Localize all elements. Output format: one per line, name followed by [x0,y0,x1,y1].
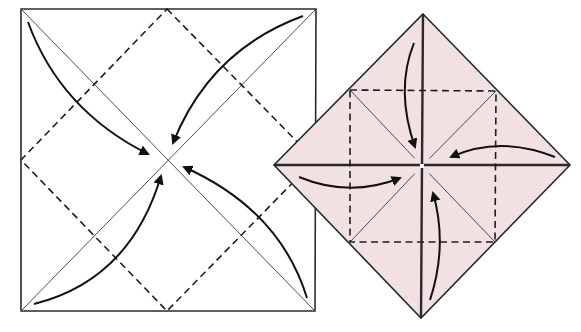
origami-diagram [0,0,581,332]
center-gap [420,164,424,168]
step-2-diamond [274,14,570,318]
step-1-square [21,9,316,311]
